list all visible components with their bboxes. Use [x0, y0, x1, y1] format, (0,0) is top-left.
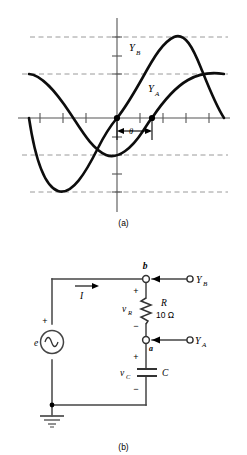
caption-b: (b) — [0, 442, 247, 452]
capacitor-ref-label: C — [162, 368, 169, 378]
curve-label-yb-group: Y B — [129, 42, 141, 57]
earth-ground-icon — [40, 416, 64, 427]
theta-arrowhead-right — [145, 128, 152, 134]
curve-yb — [29, 36, 224, 192]
circuit-schematic-svg: e + R 10 Ω v R + − C v C + — [0, 230, 247, 455]
probe-yb-label-group: Y B — [196, 274, 208, 288]
current-arrowhead — [92, 283, 99, 289]
node-b-label: b — [143, 261, 148, 271]
curve-label-yb-subscript: B — [136, 49, 141, 57]
capacitor-polarity-minus: − — [133, 384, 138, 394]
node-a-terminal — [143, 337, 150, 344]
resistor-symbol — [141, 298, 151, 324]
node-b-terminal — [143, 276, 150, 283]
probe-ya-label: Y — [195, 335, 202, 346]
current-label-i: I — [79, 291, 84, 301]
ground-junction-dot — [50, 403, 55, 408]
probe-yb-label: Y — [196, 274, 203, 285]
source-label-e: e — [34, 338, 38, 348]
probe-ya-label-group: Y A — [195, 335, 207, 349]
probe-ya-arrowhead — [152, 337, 160, 344]
capacitor-symbol — [137, 369, 157, 376]
theta-arrowhead-left — [117, 128, 124, 134]
capacitor-voltage-label-group: v C — [120, 368, 131, 380]
probe-yb-arrowhead — [152, 276, 160, 283]
figure-root: Y B Y A θ (a) — [0, 0, 247, 455]
curve-ya — [29, 73, 224, 156]
circuit-wires — [52, 279, 188, 416]
capacitor-polarity-plus: + — [133, 352, 138, 362]
current-arrow-group: I — [75, 283, 99, 301]
resistor-voltage-label: v — [122, 304, 127, 314]
circuit-schematic-panel: e + R 10 Ω v R + − C v C + — [0, 230, 247, 455]
capacitor-voltage-subscript: C — [126, 373, 131, 380]
curve-label-ya: Y — [148, 83, 155, 94]
probe-yb-terminal — [187, 276, 193, 282]
resistor-polarity-minus: − — [133, 321, 138, 331]
capacitor-voltage-label: v — [120, 368, 125, 378]
caption-a: (a) — [0, 218, 247, 228]
probe-ya-terminal — [187, 337, 193, 343]
resistor-zigzag — [141, 298, 151, 324]
probe-ya-subscript: A — [201, 341, 207, 349]
curve-label-yb: Y — [129, 42, 136, 53]
resistor-value-label: 10 Ω — [156, 310, 174, 320]
resistor-voltage-subscript: R — [127, 309, 132, 316]
ac-source-symbol — [41, 331, 64, 354]
probe-yb-subscript: B — [203, 280, 208, 288]
resistor-polarity-plus: + — [133, 286, 138, 296]
theta-label: θ — [129, 126, 133, 136]
curve-label-ya-subscript: A — [154, 90, 160, 98]
waveform-plot-svg: Y B Y A θ — [0, 0, 247, 230]
curve-label-ya-group: Y A — [148, 83, 160, 98]
source-polarity-plus: + — [42, 316, 47, 326]
node-a-label: a — [149, 344, 153, 353]
waveform-plot-panel: Y B Y A θ — [0, 0, 247, 230]
resistor-ref-label: R — [160, 298, 167, 308]
resistor-voltage-label-group: v R — [122, 304, 132, 316]
